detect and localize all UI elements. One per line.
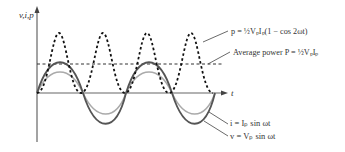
voltage-leader-line [204, 121, 228, 136]
x-axis-arrow-icon [221, 91, 228, 96]
y-axis-label: v,i,p [19, 10, 34, 20]
x-axis-label: t [231, 88, 234, 98]
current-leader-line [209, 112, 228, 124]
current-label: i = Iₚ sin ωt [230, 118, 271, 128]
power-leader-line [203, 31, 228, 42]
power-waveform-diagram: v,i,p t p = ½VₚIₚ(1 − cos 2ωt) Average p… [0, 0, 345, 152]
y-axis-arrow-icon [35, 6, 40, 13]
voltage-label: v = Vₚ sin ωt [230, 131, 276, 141]
instant-power-label: p = ½VₚIₚ(1 − cos 2ωt) [231, 27, 308, 36]
average-leader-line [208, 52, 230, 64]
average-power-label: Average power P = ½VₚIₚ [233, 48, 318, 57]
